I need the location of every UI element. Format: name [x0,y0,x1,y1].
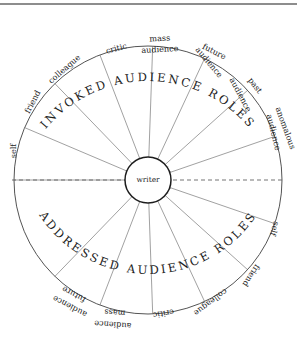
center-writer-label: writer [136,175,160,184]
audience-roles-wheel: writer INVOKED AUDIENCE ROLES ADDRESSED … [0,0,297,355]
label-addressed-critic: critic [152,307,175,320]
label-invoked-mass-line2: audience [141,43,179,55]
label-addressed-mass-line2: audience [94,319,132,332]
audience-roles-figure: writer INVOKED AUDIENCE ROLES ADDRESSED … [0,0,297,355]
role-labels-addressed: self friend colleague critic mass audien… [51,220,282,331]
heading-invoked-textpath: INVOKED AUDIENCE ROLES [37,70,259,131]
heading-invoked-audience-roles: INVOKED AUDIENCE ROLES [37,70,259,131]
label-invoked-mass-line1: mass [149,32,170,43]
heading-addressed-audience-roles: ADDRESSED AUDIENCE ROLES [36,208,260,277]
role-labels-invoked: self friend colleague critic mass audien… [8,32,297,158]
label-invoked-critic: critic [105,40,129,55]
label-addressed-mass-line1: mass [104,307,125,318]
label-addressed-colleague: colleague [192,287,230,319]
label-invoked-self: self [8,143,18,159]
label-invoked-colleague: colleague [46,52,82,86]
heading-addressed-textpath: ADDRESSED AUDIENCE ROLES [36,208,260,277]
